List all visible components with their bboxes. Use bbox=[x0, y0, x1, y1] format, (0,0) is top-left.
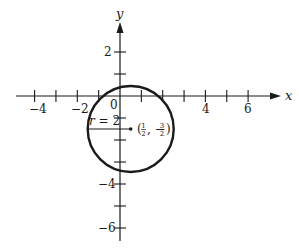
y-axis-label: y bbox=[115, 6, 124, 21]
origin-label: 0 bbox=[110, 98, 118, 112]
y-axis-arrow-icon bbox=[117, 22, 124, 33]
svg-text:2: 2 bbox=[141, 130, 145, 138]
diagram-canvas: x −4 −2 4 6 0 y 2 −4 −6 r = 2 bbox=[0, 0, 299, 252]
y-tick-label-2: 2 bbox=[104, 45, 112, 59]
svg-text:): ) bbox=[166, 122, 171, 136]
x-tick-label-4: 4 bbox=[202, 102, 210, 116]
y-tick-label-neg4: −4 bbox=[98, 177, 116, 191]
x-axis-label: x bbox=[285, 88, 293, 103]
svg-text:3: 3 bbox=[160, 122, 164, 130]
center-label: ( 1 2 , − 3 2 ) bbox=[137, 122, 171, 139]
circle-diagram: x −4 −2 4 6 0 y 2 −4 −6 r = 2 bbox=[0, 0, 299, 252]
radius-label: r = 2 bbox=[89, 114, 120, 128]
svg-text:1: 1 bbox=[141, 122, 145, 130]
x-tick-label-neg4: −4 bbox=[29, 102, 47, 116]
x-axis-arrow-icon bbox=[270, 93, 281, 100]
y-tick-label-neg6: −6 bbox=[98, 221, 116, 235]
circle-graph: r = 2 ( 1 2 , − 3 2 ) bbox=[88, 86, 174, 172]
x-tick-label-neg2: −2 bbox=[71, 102, 89, 116]
center-point-icon bbox=[129, 127, 133, 131]
x-tick-label-6: 6 bbox=[244, 102, 252, 116]
svg-text:2: 2 bbox=[160, 130, 164, 138]
